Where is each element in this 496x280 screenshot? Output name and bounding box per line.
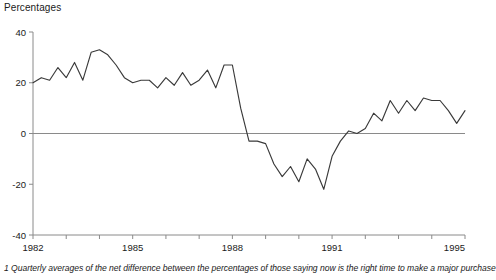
x-axis-ticks: 19821985198819911995: [22, 235, 465, 253]
x-tick-label: 1995: [444, 242, 465, 253]
y-tick-label: 40: [15, 27, 26, 38]
x-tick-label: 1988: [222, 242, 243, 253]
x-tick-label: 1982: [22, 242, 43, 253]
y-tick-label: 20: [15, 77, 26, 88]
x-tick-label: 1985: [122, 242, 143, 253]
y-tick-label: 0: [21, 128, 26, 139]
y-tick-label: -20: [12, 179, 26, 190]
chart-footnote: 1 Quarterly averages of the net differen…: [4, 263, 496, 273]
line-chart-plot: 40200-20-40 19821985198819911995: [0, 0, 473, 260]
y-axis-ticks: 40200-20-40: [12, 27, 33, 241]
x-tick-label: 1991: [322, 242, 343, 253]
y-tick-label: -40: [12, 230, 26, 241]
data-series-line: [33, 50, 465, 190]
